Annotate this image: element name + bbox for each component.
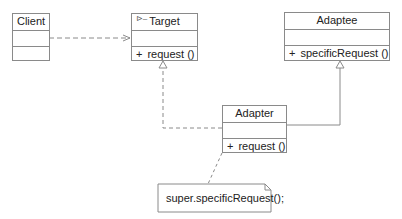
realization-adapter-target bbox=[159, 61, 222, 128]
attributes-compartment bbox=[223, 122, 286, 138]
attributes-compartment bbox=[13, 30, 49, 46]
visibility-public: + bbox=[227, 140, 233, 152]
class-adaptee[interactable]: Adaptee +specificRequest () bbox=[284, 12, 390, 61]
operation: request () bbox=[147, 48, 194, 60]
attributes-compartment bbox=[132, 30, 197, 46]
operation: specificRequest () bbox=[300, 47, 388, 59]
operations-compartment: +specificRequest () bbox=[285, 45, 389, 61]
note-anchor bbox=[208, 153, 222, 184]
interface-icon: ⊳– bbox=[136, 15, 147, 23]
class-adapter[interactable]: Adapter +request () bbox=[222, 105, 287, 153]
class-name: Target bbox=[149, 15, 180, 27]
note-text: super.specificRequest(); bbox=[166, 192, 284, 204]
operations-compartment bbox=[13, 46, 49, 62]
visibility-public: + bbox=[289, 47, 295, 59]
visibility-public: + bbox=[136, 48, 142, 60]
attributes-compartment bbox=[285, 29, 389, 45]
operation: request () bbox=[238, 140, 285, 152]
dependency-client-target bbox=[49, 35, 130, 41]
class-client[interactable]: Client bbox=[12, 13, 50, 61]
class-name: Client bbox=[13, 14, 49, 30]
uml-diagram: Client ⊳– Target +request () Adaptee +sp… bbox=[0, 0, 402, 219]
class-name: Adaptee bbox=[285, 13, 389, 29]
operations-compartment: +request () bbox=[132, 46, 197, 62]
class-target[interactable]: ⊳– Target +request () bbox=[131, 13, 198, 61]
note[interactable]: super.specificRequest(); bbox=[158, 184, 271, 212]
generalization-adapter-adaptee bbox=[287, 61, 344, 125]
operations-compartment: +request () bbox=[223, 138, 286, 154]
class-name: Adapter bbox=[223, 106, 286, 122]
class-header: ⊳– Target bbox=[132, 14, 197, 30]
